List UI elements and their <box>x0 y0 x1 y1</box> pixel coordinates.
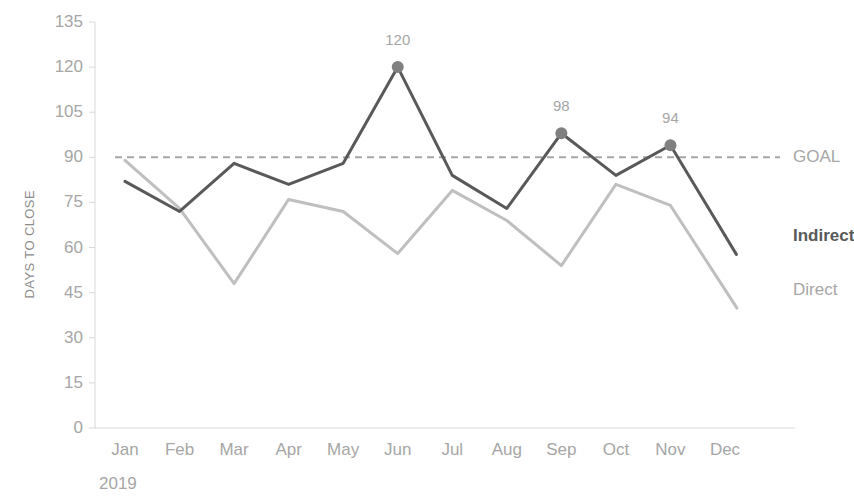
plot-area <box>0 0 854 500</box>
data-point-label: 120 <box>385 31 410 48</box>
series-line-extension-indirect <box>725 236 736 255</box>
line-chart: DAYS TO CLOSE 0153045607590105120135 Jan… <box>0 0 854 500</box>
series-line-indirect <box>125 67 725 235</box>
data-point-label: 94 <box>662 109 679 126</box>
series-line-extension-direct <box>725 290 737 308</box>
series-label-indirect: Indirect <box>793 226 854 246</box>
data-point-marker <box>664 139 676 151</box>
data-point-marker <box>555 127 567 139</box>
data-point-marker <box>392 61 404 73</box>
series-label-direct: Direct <box>793 280 837 300</box>
data-point-label: 98 <box>553 97 570 114</box>
reference-line-label-goal: GOAL <box>793 147 840 167</box>
